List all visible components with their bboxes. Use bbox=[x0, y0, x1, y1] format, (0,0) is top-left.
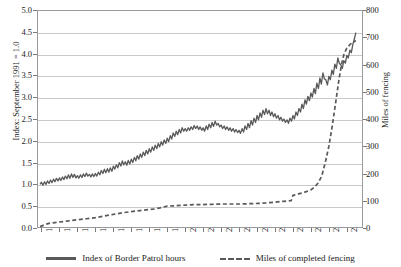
dashed-line-swatch-icon bbox=[220, 258, 250, 260]
y-axis-left-tick-label: 0.5 bbox=[0, 202, 32, 211]
y-axis-right-tick-label: 300 bbox=[366, 142, 392, 151]
series-line-1 bbox=[40, 33, 356, 186]
chart-container: Index: September 1991 = 1.0 Miles of fen… bbox=[0, 0, 401, 267]
y-axis-right-tick-mark bbox=[363, 10, 367, 11]
y-axis-right-tick-mark bbox=[363, 201, 367, 202]
legend-label-completed-fencing: Miles of completed fencing bbox=[256, 254, 355, 263]
chart-legend: Index of Border Patrol hours Miles of co… bbox=[0, 250, 401, 267]
x-axis-tick-mark bbox=[203, 228, 204, 232]
y-axis-right-tick-mark bbox=[363, 119, 367, 120]
legend-label-border-patrol-hours: Index of Border Patrol hours bbox=[82, 254, 185, 263]
y-axis-right-tick-label: 700 bbox=[366, 33, 392, 42]
x-axis-tick-mark bbox=[347, 228, 348, 232]
series-line-2 bbox=[40, 41, 356, 227]
y-axis-left-tick-label: 1.5 bbox=[0, 159, 32, 168]
y-axis-right-tick-mark bbox=[363, 228, 367, 229]
y-axis-right-tick-mark bbox=[363, 174, 367, 175]
x-axis-tick-mark bbox=[239, 228, 240, 232]
y-axis-right-tick-label: 400 bbox=[366, 115, 392, 124]
y-axis-right-tick-mark bbox=[363, 37, 367, 38]
y-axis-right-tick-label: 800 bbox=[366, 6, 392, 15]
x-axis-tick-mark bbox=[167, 228, 168, 232]
y-axis-left-tick-label: 1.0 bbox=[0, 180, 32, 189]
x-axis-tick-mark bbox=[329, 228, 330, 232]
y-axis-left-tick-label: 2.0 bbox=[0, 137, 32, 146]
y-axis-left-tick-label: 4.0 bbox=[0, 50, 32, 59]
y-axis-right-tick-label: 0 bbox=[366, 224, 392, 233]
x-axis-tick-mark bbox=[311, 228, 312, 232]
x-axis-tick-mark bbox=[221, 228, 222, 232]
y-axis-left-tick-label: 3.0 bbox=[0, 93, 32, 102]
x-axis-tick-mark bbox=[77, 228, 78, 232]
x-axis-tick-mark bbox=[41, 228, 42, 232]
y-axis-left-tick-label: 2.5 bbox=[0, 115, 32, 124]
x-axis-tick-mark bbox=[95, 228, 96, 232]
x-axis-tick-mark bbox=[185, 228, 186, 232]
solid-line-swatch-icon bbox=[46, 257, 76, 260]
y-axis-right-tick-mark bbox=[363, 65, 367, 66]
series-layer bbox=[37, 10, 363, 228]
x-axis-tick-mark bbox=[113, 228, 114, 232]
y-axis-left-tick-label: 3.5 bbox=[0, 71, 32, 80]
y-axis-right-tick-label: 100 bbox=[366, 197, 392, 206]
y-axis-right-tick-label: 500 bbox=[366, 88, 392, 97]
y-axis-right-tick-mark bbox=[363, 92, 367, 93]
legend-item-completed-fencing: Miles of completed fencing bbox=[220, 254, 355, 263]
x-axis-tick-mark bbox=[275, 228, 276, 232]
x-axis-tick-mark bbox=[293, 228, 294, 232]
x-axis-tick-mark bbox=[149, 228, 150, 232]
y-axis-left-tick-label: 4.5 bbox=[0, 28, 32, 37]
x-axis-tick-mark bbox=[131, 228, 132, 232]
y-axis-left-tick-mark bbox=[33, 228, 37, 229]
y-axis-left-tick-label: 5.0 bbox=[0, 6, 32, 15]
y-axis-right-tick-label: 600 bbox=[366, 61, 392, 70]
y-axis-right-tick-label: 200 bbox=[366, 170, 392, 179]
legend-item-border-patrol-hours: Index of Border Patrol hours bbox=[46, 254, 185, 263]
x-axis-tick-mark bbox=[257, 228, 258, 232]
y-axis-right-tick-mark bbox=[363, 146, 367, 147]
x-axis-tick-mark bbox=[59, 228, 60, 232]
y-axis-left-tick-label: 0.0 bbox=[0, 224, 32, 233]
